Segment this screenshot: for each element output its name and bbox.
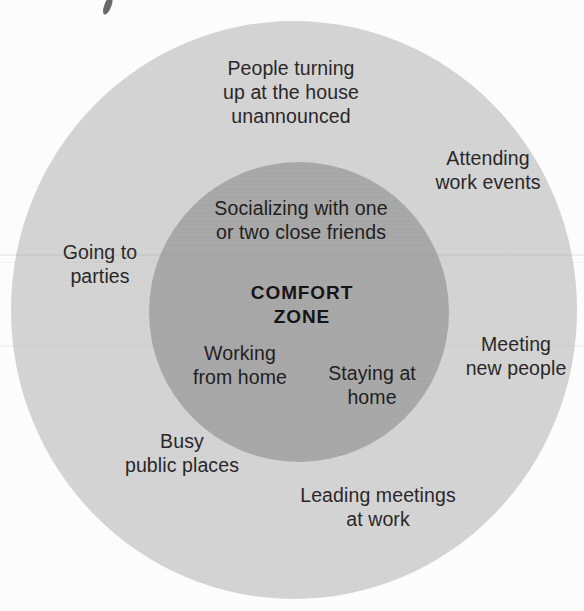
label-meeting-new-people: Meeting new people: [452, 332, 580, 380]
label-people-turning-up-at-the-house-unannounced: People turning up at the house unannounc…: [180, 56, 402, 129]
label-staying-at-home: Staying at home: [312, 361, 432, 409]
comfort-zone-title: COMFORT ZONE: [226, 281, 378, 328]
label-attending-work-events: Attending work events: [402, 146, 574, 194]
label-working-from-home: Working from home: [172, 341, 308, 389]
scan-crop-artifact: [101, 0, 114, 15]
label-busy-public-places: Busy public places: [104, 429, 260, 477]
label-socializing-with-close-friends: Socializing with one or two close friend…: [198, 196, 404, 244]
label-going-to-parties: Going to parties: [30, 240, 170, 288]
label-leading-meetings-at-work: Leading meetings at work: [290, 483, 466, 531]
comfort-zone-diagram: People turning up at the house unannounc…: [0, 0, 584, 611]
